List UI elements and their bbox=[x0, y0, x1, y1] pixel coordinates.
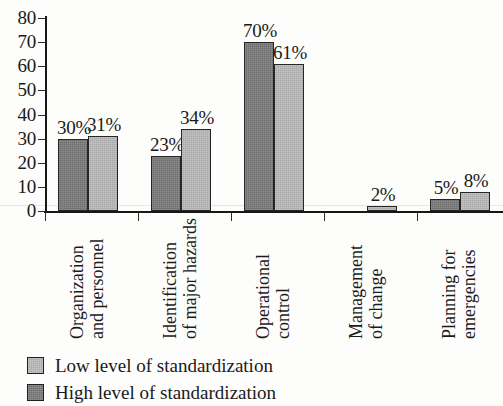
chart-legend: Low level of standardizationHigh level o… bbox=[27, 352, 276, 406]
y-axis-tick-label: 60 bbox=[0, 56, 36, 75]
category-label-line: emergencies bbox=[459, 249, 479, 339]
x-axis-line bbox=[44, 211, 503, 213]
x-axis-tick bbox=[417, 212, 418, 221]
plot-area: 30%31%23%34%70%61%2%5%8% bbox=[45, 18, 503, 211]
bar-high-0 bbox=[58, 139, 88, 211]
bar-high-2 bbox=[244, 42, 274, 211]
bar-chart: 80706050403020100 30%31%23%34%70%61%2%5%… bbox=[0, 0, 503, 406]
category-label-line: Management bbox=[346, 245, 366, 339]
y-axis-tick-label: 70 bbox=[0, 32, 36, 51]
legend-swatch-low bbox=[27, 357, 44, 374]
y-axis-tick-label: 0 bbox=[0, 201, 36, 220]
category-label-line: Organization bbox=[67, 239, 87, 339]
x-axis-tick bbox=[231, 212, 232, 221]
legend-label: Low level of standardization bbox=[55, 356, 273, 375]
legend-item-0: Low level of standardization bbox=[27, 352, 276, 379]
category-label-line: Planning for bbox=[439, 249, 459, 339]
y-axis-tick-label: 40 bbox=[0, 105, 36, 124]
category-label-line: of major hazards bbox=[180, 218, 200, 339]
y-axis-tick-label: 20 bbox=[0, 153, 36, 172]
bar-low-4 bbox=[460, 192, 490, 211]
x-axis-tick bbox=[45, 212, 46, 221]
bar-high-1 bbox=[151, 156, 181, 211]
legend-swatch-high bbox=[27, 384, 44, 401]
category-label-line: of change bbox=[366, 245, 386, 339]
bar-value-label: 31% bbox=[85, 115, 123, 134]
bar-low-2 bbox=[274, 64, 304, 211]
bar-high-4 bbox=[430, 199, 460, 211]
y-axis-tick-label: 50 bbox=[0, 80, 36, 99]
bar-value-label: 61% bbox=[271, 43, 309, 62]
y-axis-tick-label: 30 bbox=[0, 129, 36, 148]
category-label-line: control bbox=[273, 254, 293, 339]
x-axis-tick bbox=[324, 212, 325, 221]
y-axis-tick-label: 80 bbox=[0, 8, 36, 27]
legend-item-1: High level of standardization bbox=[27, 379, 276, 406]
y-axis-tick-label: 10 bbox=[0, 177, 36, 196]
category-label-line: Identification bbox=[160, 218, 180, 339]
legend-label: High level of standardization bbox=[55, 383, 276, 402]
bar-value-label: 2% bbox=[364, 185, 402, 204]
x-axis-tick bbox=[138, 212, 139, 221]
bar-value-label: 34% bbox=[178, 108, 216, 127]
category-label-line: Operational bbox=[253, 254, 273, 339]
bar-value-label: 70% bbox=[241, 21, 279, 40]
bar-value-label: 8% bbox=[457, 171, 495, 190]
bar-low-1 bbox=[181, 129, 211, 211]
category-label-line: and personnel bbox=[87, 239, 107, 339]
bar-low-0 bbox=[88, 136, 118, 211]
